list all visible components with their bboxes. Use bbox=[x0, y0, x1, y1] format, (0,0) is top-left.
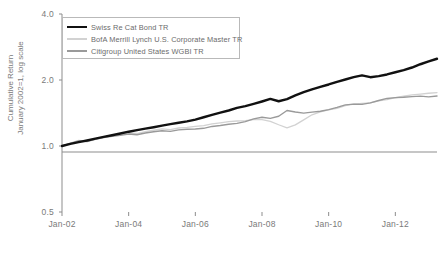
y-tick-label: 4.0 bbox=[30, 9, 54, 19]
x-tick-label: Jan-12 bbox=[373, 219, 417, 229]
x-tick-label: Jan-04 bbox=[107, 219, 151, 229]
y-tick-label: 2.0 bbox=[30, 75, 54, 85]
y-axis-title: Cumulative Return January 2002=1, log sc… bbox=[6, 28, 26, 148]
x-tick-label: Jan-10 bbox=[307, 219, 351, 229]
series-line bbox=[62, 59, 437, 146]
legend-item-citigroup-wgbi: Citigroup United States WGBI TR bbox=[67, 45, 235, 57]
y-tick-label: 1.0 bbox=[30, 141, 54, 151]
y-axis-title-line2: January 2002=1, log scale bbox=[16, 28, 26, 148]
legend-swatch-icon bbox=[67, 50, 87, 51]
series-line bbox=[62, 96, 437, 146]
legend-item-label: BofA Merrill Lynch U.S. Corporate Master… bbox=[91, 35, 242, 44]
y-tick-label: 0.5 bbox=[30, 207, 54, 217]
legend-item-bofa-merrill-lynch: BofA Merrill Lynch U.S. Corporate Master… bbox=[67, 33, 235, 45]
legend-item-label: Swiss Re Cat Bond TR bbox=[91, 23, 168, 32]
legend-item-label: Citigroup United States WGBI TR bbox=[91, 47, 204, 56]
legend-swatch-icon bbox=[67, 26, 87, 28]
cumulative-return-chart: Cumulative Return January 2002=1, log sc… bbox=[0, 0, 443, 257]
data-series-layer bbox=[62, 59, 437, 146]
legend-item-swiss-re-cat-bond: Swiss Re Cat Bond TR bbox=[67, 21, 235, 33]
x-tick-label: Jan-02 bbox=[40, 219, 84, 229]
legend-swatch-icon bbox=[67, 38, 87, 39]
y-axis-title-line1: Cumulative Return bbox=[6, 28, 16, 148]
x-tick-label: Jan-06 bbox=[173, 219, 217, 229]
legend: Swiss Re Cat Bond TR BofA Merrill Lynch … bbox=[62, 17, 240, 59]
x-tick-marks bbox=[62, 212, 395, 216]
x-tick-label: Jan-08 bbox=[240, 219, 284, 229]
